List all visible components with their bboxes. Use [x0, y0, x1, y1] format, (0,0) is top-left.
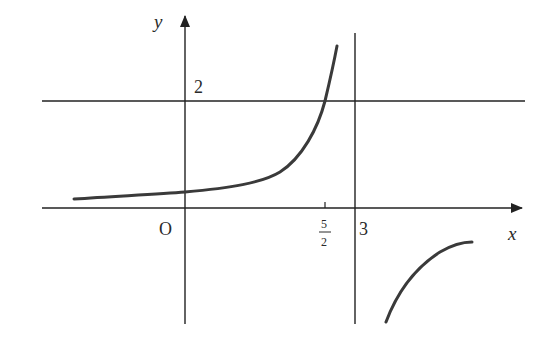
fraction-denominator: 2 [321, 235, 327, 249]
fraction-numerator: 5 [321, 217, 327, 231]
x-tick-label-3: 3 [359, 219, 368, 239]
y-axis-label: y [152, 11, 163, 32]
curve-right-branch [386, 242, 472, 322]
origin-label: O [159, 219, 172, 239]
x-axis-label: x [507, 223, 517, 244]
curve-left-branch [74, 46, 337, 199]
y-tick-label-2: 2 [194, 77, 203, 97]
function-graph: y x O 2 3 5 2 [0, 0, 548, 341]
